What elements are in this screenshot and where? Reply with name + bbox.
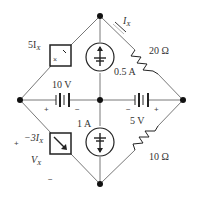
current-source-1a: 1 A — [77, 118, 114, 156]
battery-10v: 10 V + − — [44, 79, 80, 114]
voltage-label: VX — [31, 154, 42, 167]
node-left — [17, 97, 23, 103]
battery-right-label: 5 V — [130, 115, 145, 126]
battery-left-minus: − — [75, 105, 80, 114]
resistor-20-ohm: 20 Ω — [131, 45, 169, 74]
battery-left-label: 10 V — [52, 79, 72, 90]
current-indicator-label: IX — [122, 15, 131, 28]
resistor-top-label: 20 Ω — [149, 45, 169, 56]
resistor-10-ohm: 10 Ω — [133, 126, 169, 162]
node-center — [97, 97, 103, 103]
battery-right-minus: − — [126, 105, 131, 114]
node-bottom — [97, 181, 103, 187]
dep-source-bottom-label: −3IX — [24, 132, 44, 145]
current-source-0-5a: 0.5 A — [86, 43, 136, 77]
dependent-source-minus-3ix: −3IX + VX − — [14, 132, 71, 184]
battery-right-plus: + — [154, 105, 159, 114]
node-right — [180, 97, 186, 103]
dependent-source-5ix: × 5IX — [28, 39, 71, 66]
battery-5v: 5 V − + — [126, 93, 159, 126]
voltage-minus: − — [48, 175, 53, 184]
circuit-diagram: × 5IX 0.5 A 20 Ω IX 10 V + − 5 V − — [0, 0, 198, 199]
voltage-plus: + — [14, 139, 19, 148]
resistor-bottom-label: 10 Ω — [149, 151, 169, 162]
current-source-top-label: 0.5 A — [114, 66, 136, 77]
current-source-bottom-label: 1 A — [77, 118, 92, 129]
dep-source-top-label: 5IX — [28, 39, 41, 52]
node-top — [97, 13, 103, 19]
battery-left-plus: + — [44, 105, 49, 114]
x-mark-icon: × — [53, 56, 57, 63]
